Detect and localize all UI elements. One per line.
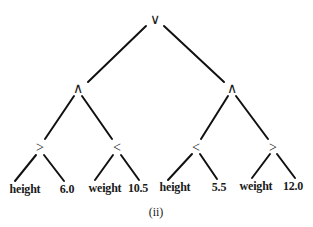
leaf-weight: weight xyxy=(240,180,273,192)
leaf-value: 10.5 xyxy=(128,182,148,194)
tree-edge xyxy=(168,154,192,180)
figure-caption: (ii) xyxy=(149,206,164,218)
leaf-value: 12.0 xyxy=(283,180,303,192)
leaf-height: height xyxy=(160,181,191,193)
tree-edge xyxy=(201,96,228,139)
root-or-node: ∨ xyxy=(150,13,160,27)
tree-edge xyxy=(88,26,146,82)
tree-edge xyxy=(236,96,268,139)
tree-edge xyxy=(45,96,74,139)
leaf-value: 6.0 xyxy=(60,183,74,195)
tree-edge xyxy=(15,155,36,181)
tree-edge xyxy=(95,155,113,180)
greater-than-node: > xyxy=(36,141,44,155)
greater-than-node: > xyxy=(269,141,277,155)
leaf-height: height xyxy=(10,183,41,195)
tree-edge xyxy=(277,154,295,178)
right-and-node: ∧ xyxy=(227,82,237,96)
left-and-node: ∧ xyxy=(73,82,83,96)
tree-edge xyxy=(121,155,139,180)
tree-edge xyxy=(164,26,224,82)
leaf-weight: weight xyxy=(89,182,122,194)
less-than-node: < xyxy=(192,141,200,155)
less-than-node: < xyxy=(113,141,121,155)
tree-edge xyxy=(82,96,112,139)
tree-edge xyxy=(200,154,217,179)
tree-edge xyxy=(44,155,64,181)
expression-tree-diagram: ∨ ∧ ∧ > < < > height 6.0 weight 10.5 hei… xyxy=(0,0,313,227)
leaf-value: 5.5 xyxy=(212,181,226,193)
tree-edge xyxy=(252,154,270,178)
